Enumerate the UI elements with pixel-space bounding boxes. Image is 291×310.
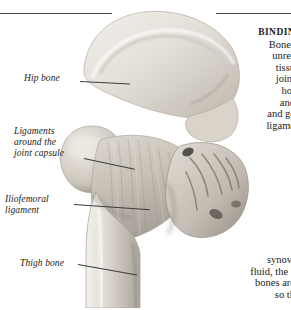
ischium-pubis-region: [166, 143, 249, 238]
body-top-line-2: unres: [145, 50, 291, 62]
body-heading-binding: BINDIN: [145, 27, 291, 39]
body-top-line-5: hol: [145, 85, 291, 97]
body-top-line-6: and: [145, 97, 291, 109]
body-top-line-3: tissu: [145, 62, 291, 74]
body-bottom-line-2: fluid, the ": [145, 266, 291, 278]
body-bottom-line-4: so th: [145, 289, 291, 301]
body-bottom-line-1: synovi: [145, 254, 291, 266]
body-text-bottom: synovi fluid, the " bones are so th: [145, 254, 291, 300]
figure-hip-joint: Hip bone Ligaments around the joint caps…: [0, 0, 291, 310]
body-top-line-1: Bones: [145, 39, 291, 51]
label-thigh-bone: Thigh bone: [20, 258, 86, 269]
body-bottom-line-3: bones are: [145, 277, 291, 289]
label-hip-bone: Hip bone: [24, 73, 90, 84]
body-text-top: BINDIN Bones unres tissu joint hol and a…: [145, 27, 291, 131]
body-top-line-7: and ge: [145, 108, 291, 120]
body-top-line-4: joint: [145, 73, 291, 85]
label-ligaments-capsule: Ligaments around the joint capsule: [14, 126, 94, 160]
body-top-line-8: ligame: [145, 120, 291, 132]
label-iliofemoral-ligament: Iliofemoral ligament: [5, 194, 81, 216]
